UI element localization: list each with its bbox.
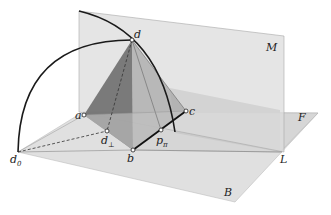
label-d: d [134,29,141,40]
geometry-figure [0,0,331,215]
label-b: b [127,153,134,164]
point-d-perp [105,129,109,133]
label-plane-f: F [298,112,306,123]
label-a: a [75,110,82,121]
point-a [82,113,86,117]
label-line-l: L [280,154,287,165]
label-p-sub: π [163,141,168,149]
label-d0-sub: 0 [17,160,21,168]
label-p-main: p [156,134,163,147]
label-c: c [189,106,195,117]
label-plane-b: B [224,187,232,198]
label-d-perp-main: d [101,134,108,147]
label-d0: d0 [10,154,22,168]
point-c [184,109,188,113]
label-d-perp: d⊥ [101,135,115,149]
label-plane-m: M [266,42,277,53]
label-d0-main: d [10,153,17,166]
label-p-pi: pπ [156,135,168,149]
diagram-canvas: d a b c d⊥ d0 pπ M F B L [0,0,331,215]
label-d-perp-sub: ⊥ [108,141,115,149]
point-p-pi [159,128,163,132]
